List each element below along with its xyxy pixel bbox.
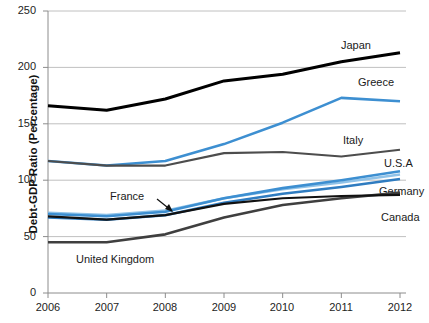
series-lines [48,53,400,243]
series-line-u-s-a [48,171,400,216]
series-line-united-kingdom [48,193,400,243]
series-line-italy [48,150,400,166]
plot-canvas [0,0,429,323]
debt-gdp-ratio-line-chart: Debt-GDP Ratio (Percentage) 250 200 150 … [0,0,429,323]
series-line-japan [48,53,400,111]
